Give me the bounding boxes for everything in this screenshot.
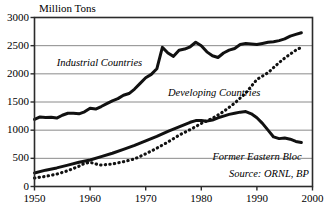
source-note: Source: ORNL, BP xyxy=(229,168,309,179)
annotation-industrial-countries: Industrial Countries xyxy=(57,57,142,68)
series-line-1 xyxy=(35,112,302,173)
annotation-developing-countries: Developing Countries xyxy=(168,87,260,98)
y-axis-title: Million Tons xyxy=(39,2,96,14)
x-tick-label: 1970 xyxy=(126,192,166,204)
y-tick-label: 2500 xyxy=(0,39,29,51)
x-tick-label: 1980 xyxy=(181,192,221,204)
y-tick-label: 1000 xyxy=(0,123,29,135)
x-tick-label: 2000 xyxy=(293,192,324,204)
chart-container: Million Tons 050010001500200025003000 19… xyxy=(0,0,324,207)
y-tick-label: 500 xyxy=(0,151,29,163)
y-tick-label: 1500 xyxy=(0,95,29,107)
y-tick-label: 2000 xyxy=(0,67,29,79)
x-tick-label: 1950 xyxy=(15,192,55,204)
y-tick-label: 3000 xyxy=(0,11,29,23)
x-tick-label: 1990 xyxy=(237,192,277,204)
x-tick-label: 1960 xyxy=(70,192,110,204)
y-tick-label: 0 xyxy=(0,180,29,192)
annotation-former-eastern-bloc: Former Eastern Bloc xyxy=(212,151,301,162)
